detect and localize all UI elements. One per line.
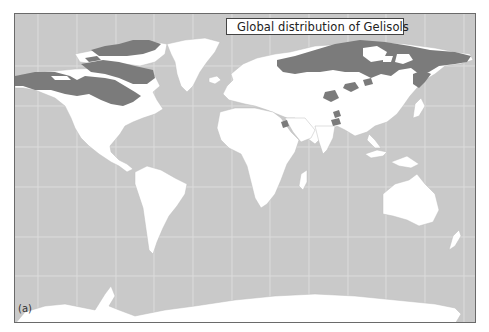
- world-map: [15, 14, 476, 323]
- legend-label: Global distribution of Gelisols: [237, 20, 409, 34]
- panel-label: (a): [18, 303, 32, 314]
- map-legend: Global distribution of Gelisols: [226, 18, 404, 35]
- world-map-frame: Global distribution of Gelisols: [14, 13, 476, 323]
